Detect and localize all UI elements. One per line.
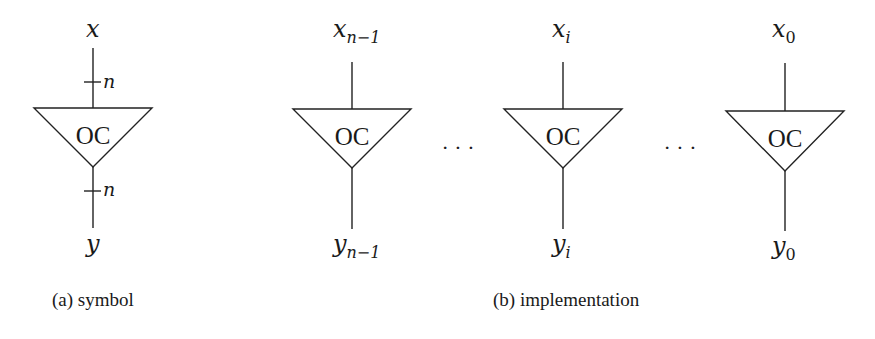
gate-label: OC <box>546 123 581 150</box>
output-label: y0 <box>771 232 796 264</box>
output-label: yn−1 <box>332 230 380 262</box>
gate-label: OC <box>768 125 803 152</box>
symbol-output-label: y <box>85 230 100 258</box>
symbol-gate: x n OC n y (a) symbol <box>34 15 152 311</box>
gate-n-minus-1: xn−1 OC yn−1 <box>293 15 411 262</box>
caption-a: (a) symbol <box>52 289 134 311</box>
symbol-input-label: x <box>86 15 100 43</box>
input-label: xn−1 <box>333 15 380 47</box>
gate-label: OC <box>76 122 111 149</box>
gate-label: OC <box>335 123 370 150</box>
output-label: yi <box>551 230 571 262</box>
input-label: x0 <box>772 15 796 47</box>
ellipsis-1: · · · <box>442 135 475 160</box>
gate-i: xi OC yi <box>504 15 622 262</box>
bus-width-bottom: n <box>103 178 115 200</box>
caption-b: (b) implementation <box>493 289 640 311</box>
input-label: xi <box>552 15 571 47</box>
open-collector-diagram: x n OC n y (a) symbol xn−1 OC yn−1 · · ·… <box>0 0 875 339</box>
bus-width-top: n <box>103 70 115 92</box>
ellipsis-2: · · · <box>664 135 697 160</box>
gate-0: x0 OC y0 <box>726 15 844 264</box>
